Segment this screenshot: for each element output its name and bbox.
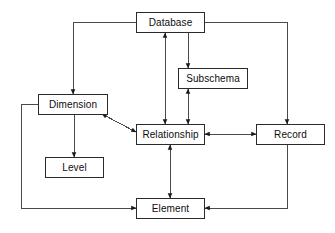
node-dimension[interactable]: Dimension xyxy=(38,94,108,115)
node-label-level: Level xyxy=(62,163,86,173)
node-relationship[interactable]: Relationship xyxy=(136,124,205,145)
node-label-dimension: Dimension xyxy=(49,100,97,110)
node-label-record: Record xyxy=(274,130,307,140)
edge-dimension-to-element xyxy=(21,104,136,208)
diagram-canvas: Database Subschema Dimension Relationshi… xyxy=(0,0,335,233)
edge-dimension-relationship xyxy=(102,114,136,132)
node-label-element: Element xyxy=(152,204,189,214)
edge-database-to-dimension xyxy=(73,22,136,94)
node-element[interactable]: Element xyxy=(136,198,205,219)
node-database[interactable]: Database xyxy=(136,12,205,33)
node-label-relationship: Relationship xyxy=(142,130,198,140)
node-subschema[interactable]: Subschema xyxy=(178,68,248,89)
node-record[interactable]: Record xyxy=(256,124,325,145)
node-label-database: Database xyxy=(149,18,193,28)
node-level[interactable]: Level xyxy=(45,157,104,178)
node-label-subschema: Subschema xyxy=(186,74,240,84)
edge-record-to-element xyxy=(205,145,287,208)
